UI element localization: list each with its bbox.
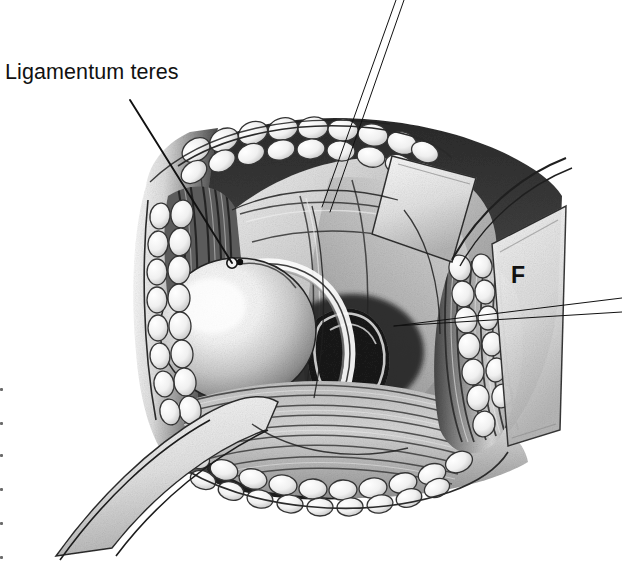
label-f-marker: F xyxy=(511,262,525,289)
label-ligamentum-teres: Ligamentum teres xyxy=(5,60,179,85)
scan-margin-dots xyxy=(0,388,5,568)
anatomical-drawing xyxy=(0,0,622,569)
illustration-canvas: Ligamentum teres F xyxy=(0,0,622,569)
